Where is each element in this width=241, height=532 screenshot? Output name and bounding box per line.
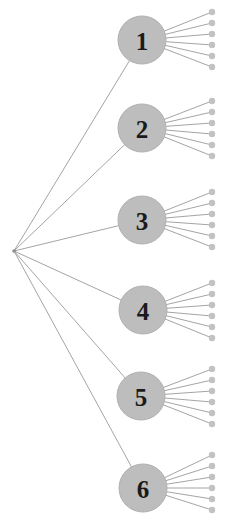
leaf-node-2-1[interactable] <box>209 98 215 104</box>
node-circle-4[interactable] <box>119 286 167 334</box>
tree-node-2[interactable]: 2 <box>118 104 166 152</box>
leaf-node-3-2[interactable] <box>209 200 215 206</box>
leaf-node-4-4[interactable] <box>209 313 215 319</box>
tree-node-3[interactable]: 3 <box>118 196 166 244</box>
edge-root-to-node-4 <box>14 251 121 300</box>
edge-node-4-to-leaf-4 <box>167 312 212 316</box>
leaf-node-4-3[interactable] <box>209 302 215 308</box>
edge-root-to-node-1 <box>14 61 130 251</box>
edge-node-2-to-leaf-5 <box>165 134 212 145</box>
edge-node-4-to-leaf-2 <box>166 294 212 305</box>
leaf-node-2-5[interactable] <box>209 142 215 148</box>
root-edge-group <box>14 61 132 467</box>
tree-node-6[interactable]: 6 <box>119 464 167 512</box>
edge-node-1-to-leaf-2 <box>165 23 212 34</box>
leaf-node-2-2[interactable] <box>209 109 215 115</box>
leaf-node-group <box>209 9 215 513</box>
leaf-node-1-3[interactable] <box>209 31 215 37</box>
leaf-node-2-3[interactable] <box>209 120 215 126</box>
leaf-node-1-1[interactable] <box>209 9 215 15</box>
edge-node-3-to-leaf-1 <box>164 192 212 211</box>
internal-node-group: 123456 <box>117 16 167 512</box>
leaf-node-1-4[interactable] <box>209 42 215 48</box>
leaf-node-5-1[interactable] <box>209 366 215 372</box>
leaf-node-3-6[interactable] <box>209 244 215 250</box>
leaf-node-6-2[interactable] <box>209 463 215 469</box>
edge-node-3-to-leaf-3 <box>166 214 212 218</box>
leaf-node-6-3[interactable] <box>209 474 215 480</box>
node-circle-3[interactable] <box>118 196 166 244</box>
leaf-node-4-1[interactable] <box>209 280 215 286</box>
leaf-node-4-5[interactable] <box>209 324 215 330</box>
leaf-node-3-3[interactable] <box>209 211 215 217</box>
root-node-group <box>12 249 16 253</box>
edge-node-5-to-leaf-5 <box>164 402 212 413</box>
edge-node-2-to-leaf-3 <box>166 123 212 126</box>
tree-node-1[interactable]: 1 <box>118 16 166 64</box>
edge-node-3-to-leaf-6 <box>164 229 212 247</box>
leaf-node-3-1[interactable] <box>209 189 215 195</box>
leaf-node-3-4[interactable] <box>209 222 215 228</box>
leaf-node-6-4[interactable] <box>209 485 215 491</box>
node-circle-5[interactable] <box>117 372 165 420</box>
edge-node-5-to-leaf-1 <box>163 369 212 387</box>
node-circle-2[interactable] <box>118 104 166 152</box>
edge-node-4-to-leaf-3 <box>167 305 212 308</box>
edge-node-1-to-leaf-4 <box>166 42 212 45</box>
leaf-node-1-5[interactable] <box>209 53 215 59</box>
edge-node-5-to-leaf-2 <box>164 380 212 391</box>
leaf-node-1-6[interactable] <box>209 64 215 70</box>
leaf-node-5-2[interactable] <box>209 377 215 383</box>
leaf-node-5-4[interactable] <box>209 399 215 405</box>
edge-node-5-to-leaf-4 <box>165 398 212 402</box>
leaf-node-4-6[interactable] <box>209 335 215 341</box>
leaf-node-2-4[interactable] <box>209 131 215 137</box>
edge-node-1-to-leaf-6 <box>164 49 212 67</box>
edge-node-2-to-leaf-1 <box>164 101 212 119</box>
edge-node-2-to-leaf-6 <box>164 137 212 156</box>
leaf-node-3-5[interactable] <box>209 233 215 239</box>
tree-diagram-svg: 123456 <box>0 0 241 532</box>
leaf-node-6-5[interactable] <box>209 496 215 502</box>
leaf-node-5-6[interactable] <box>209 421 215 427</box>
leaf-node-2-6[interactable] <box>209 153 215 159</box>
leaf-node-6-6[interactable] <box>209 507 215 513</box>
node-circle-1[interactable] <box>118 16 166 64</box>
edge-node-1-to-leaf-3 <box>166 34 212 38</box>
edge-node-5-to-leaf-3 <box>165 391 212 394</box>
edge-node-1-to-leaf-1 <box>164 12 212 31</box>
edge-node-1-to-leaf-5 <box>165 45 212 56</box>
edge-node-6-to-leaf-1 <box>165 455 212 478</box>
edge-node-4-to-leaf-5 <box>166 316 212 327</box>
edge-node-4-to-leaf-1 <box>165 283 212 301</box>
tree-node-4[interactable]: 4 <box>119 286 167 334</box>
edge-root-to-node-5 <box>14 251 125 378</box>
node-circle-6[interactable] <box>119 464 167 512</box>
leaf-edge-group <box>163 12 212 510</box>
tree-node-5[interactable]: 5 <box>117 372 165 420</box>
leaf-node-5-5[interactable] <box>209 410 215 416</box>
edge-node-3-to-leaf-5 <box>165 225 212 236</box>
leaf-node-6-1[interactable] <box>209 452 215 458</box>
edge-node-4-to-leaf-6 <box>165 319 212 338</box>
edge-node-2-to-leaf-4 <box>166 130 212 134</box>
tree-diagram-canvas: 123456 <box>0 0 241 532</box>
leaf-node-5-3[interactable] <box>209 388 215 394</box>
edge-root-to-node-6 <box>14 251 132 467</box>
root-node-vertex[interactable] <box>12 249 16 253</box>
edge-root-to-node-3 <box>14 226 119 251</box>
edge-node-3-to-leaf-2 <box>165 203 212 214</box>
leaf-node-1-2[interactable] <box>209 20 215 26</box>
edge-node-3-to-leaf-4 <box>166 222 212 225</box>
edge-node-5-to-leaf-6 <box>163 405 212 424</box>
edge-node-2-to-leaf-2 <box>165 112 212 123</box>
leaf-node-4-2[interactable] <box>209 291 215 297</box>
